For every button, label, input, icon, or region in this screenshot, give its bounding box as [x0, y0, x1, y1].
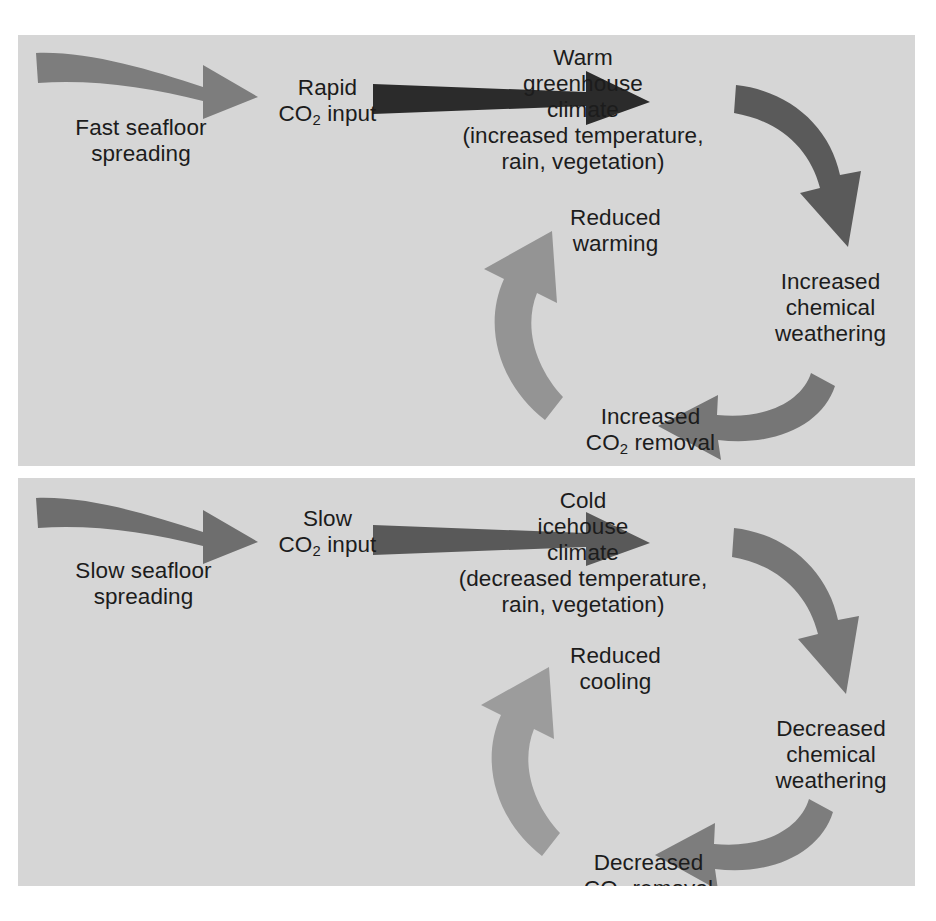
label-decreased-co2-removal-line2-pre: CO	[584, 876, 618, 886]
label-slow-co2-input: SlowCO2 input	[240, 506, 415, 560]
co2-removal-to-reduced-cooling-arrow	[481, 667, 560, 856]
label-decreased-co2-removal-line1: Decreased	[594, 850, 704, 875]
label-warm-greenhouse-climate: Warm greenhouse climate (increased tempe…	[418, 45, 748, 175]
label-rapid-co2-input-line2-pre: CO	[279, 101, 313, 126]
co2-removal-to-reduced-warming-arrow	[484, 231, 563, 420]
label-reduced-warming: Reduced warming	[523, 205, 708, 257]
label-cold-icehouse-climate: Cold icehouse climate (decreased tempera…	[413, 488, 753, 618]
label-decreased-co2-removal-line2-post: removal	[626, 876, 713, 886]
label-increased-co2-removal-line2-post: removal	[628, 430, 715, 455]
panel-icehouse: Slow seafloor spreading SlowCO2 input Co…	[18, 478, 915, 886]
label-rapid-co2-input-line1: Rapid	[298, 75, 357, 100]
label-slow-co2-input-line2-pre: CO	[279, 532, 313, 557]
label-increased-chemical-weathering: Increased chemical weathering	[748, 269, 913, 347]
label-slow-co2-input-line2-post: input	[321, 532, 377, 557]
label-increased-co2-removal-line2-pre: CO	[586, 430, 620, 455]
label-rapid-co2-subscript: 2	[312, 112, 320, 128]
label-decreased-co2-removal: DecreasedCO2 removal	[536, 850, 761, 886]
spreading-to-co2-input-arrow	[36, 498, 258, 564]
label-increased-co2-removal: IncreasedCO2 removal	[543, 404, 758, 458]
label-reduced-cooling: Reduced cooling	[523, 643, 708, 695]
climate-feedback-diagram: Fast seafloor spreading RapidCO2 input W…	[0, 0, 936, 921]
panel-greenhouse: Fast seafloor spreading RapidCO2 input W…	[18, 35, 915, 466]
label-decreased-chemical-weathering: Decreased chemical weathering	[745, 716, 915, 794]
label-slow-seafloor-spreading: Slow seafloor spreading	[26, 558, 261, 610]
spreading-to-co2-input-arrow	[36, 53, 258, 119]
label-increased-co2-removal-subscript: 2	[620, 441, 628, 457]
label-rapid-co2-input: RapidCO2 input	[240, 75, 415, 129]
label-fast-seafloor-spreading: Fast seafloor spreading	[26, 115, 256, 167]
label-increased-co2-removal-line1: Increased	[601, 404, 701, 429]
climate-to-weathering-arrow	[734, 85, 861, 247]
label-rapid-co2-input-line2-post: input	[321, 101, 377, 126]
label-slow-co2-subscript: 2	[312, 543, 320, 559]
label-slow-co2-input-line1: Slow	[303, 506, 352, 531]
